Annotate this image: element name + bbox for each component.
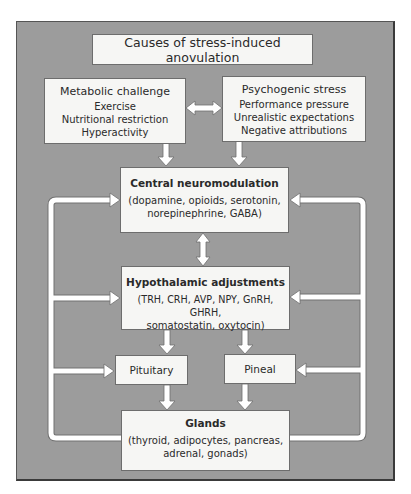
arrow-right-icon: [104, 364, 114, 378]
arrow-down-icon: [159, 385, 175, 410]
diagram-title: Causes of stress-induced anovulation: [93, 35, 312, 65]
psychogenic-heading: Psychogenic stress: [223, 83, 365, 96]
pituitary-box: Pituitary: [115, 355, 188, 385]
arrow-right-icon: [110, 193, 120, 207]
glands-heading: Glands: [122, 417, 289, 429]
hypothalamic-line: (TRH, CRH, AVP, NPY, GnRH, GHRH,: [122, 293, 289, 319]
psychogenic-item: Unrealistic expectations: [223, 111, 365, 124]
psychogenic-item: Performance pressure: [223, 98, 365, 111]
metabolic-challenge-box: Metabolic challenge Exercise Nutritional…: [44, 78, 186, 144]
central-heading: Central neuromodulation: [121, 177, 288, 189]
pineal-box: Pineal: [224, 354, 296, 384]
arrow-left-icon: [296, 363, 306, 377]
pineal-label: Pineal: [244, 363, 276, 375]
arrow-left-icon: [290, 193, 300, 207]
glands-line: (thyroid, adipocytes, pancreas,: [122, 434, 289, 447]
arrow-down-icon: [231, 141, 247, 166]
metabolic-item: Hyperactivity: [45, 126, 185, 139]
central-neuromodulation-box: Central neuromodulation (dopamine, opioi…: [120, 167, 289, 233]
arrow-down-icon: [237, 384, 253, 410]
metabolic-item: Exercise: [45, 100, 185, 113]
arrow-left-icon: [290, 290, 300, 304]
central-line: norepinephrine, GABA): [121, 207, 288, 220]
hypothalamic-line: somatostatin, oxytocin): [122, 319, 289, 332]
hypothalamic-heading: Hypothalamic adjustments: [122, 276, 289, 288]
double-arrow-horizontal-icon: [186, 101, 222, 115]
arrow-right-icon: [110, 291, 120, 305]
metabolic-item: Nutritional restriction: [45, 113, 185, 126]
glands-box: Glands (thyroid, adipocytes, pancreas, a…: [121, 410, 290, 471]
diagram-title-box: Causes of stress-induced anovulation: [92, 34, 313, 65]
psychogenic-item: Negative attributions: [223, 124, 365, 137]
arrow-down-icon: [158, 143, 174, 166]
glands-line: adrenal, gonads): [122, 447, 289, 460]
central-line: (dopamine, opioids, serotonin,: [121, 194, 288, 207]
psychogenic-stress-box: Psychogenic stress Performance pressure …: [222, 76, 366, 142]
right-feedback-loop: [290, 193, 363, 438]
pituitary-label: Pituitary: [130, 364, 174, 376]
arrow-down-icon: [159, 330, 175, 354]
left-feedback-loop: [51, 193, 121, 438]
metabolic-heading: Metabolic challenge: [45, 85, 185, 98]
double-arrow-vertical-icon: [196, 233, 210, 266]
hypothalamic-adjustments-box: Hypothalamic adjustments (TRH, CRH, AVP,…: [121, 266, 290, 330]
arrow-down-icon: [237, 330, 253, 354]
